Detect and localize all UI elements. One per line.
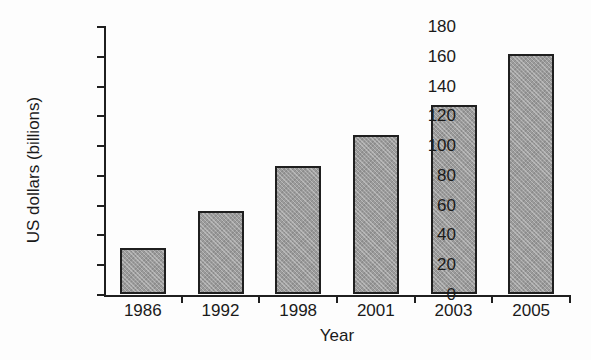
y-axis-title: US dollars (billions): [24, 40, 44, 300]
y-axis-tick: [97, 115, 105, 117]
y-axis-tick: [97, 205, 105, 207]
x-axis-tick-label: 2003: [415, 302, 493, 320]
y-axis-line: [104, 26, 106, 297]
y-axis-tick: [97, 294, 105, 296]
y-axis-tick-label: 120: [410, 107, 456, 124]
y-axis-tick-label: 100: [410, 137, 456, 154]
y-axis-tick: [97, 26, 105, 28]
y-axis-tick: [97, 86, 105, 88]
x-axis-tick-label: 2005: [492, 302, 570, 320]
y-axis-tick-label: 140: [410, 78, 456, 95]
bar: [120, 248, 166, 294]
y-axis-tick: [97, 264, 105, 266]
y-axis-tick: [97, 234, 105, 236]
y-axis-tick: [97, 56, 105, 58]
bar: [353, 135, 399, 294]
y-axis-tick-label: 180: [410, 18, 456, 35]
y-axis-tick-label: 80: [410, 167, 456, 184]
bar-chart-figure: US dollars (billions) 020406080100120140…: [0, 0, 591, 360]
y-axis-tick: [97, 175, 105, 177]
y-axis-tick-label: 20: [410, 256, 456, 273]
x-axis-tick-label: 1992: [182, 302, 260, 320]
plot-area: 020406080100120140160180: [104, 26, 570, 296]
y-axis-tick: [97, 145, 105, 147]
x-axis-title: Year: [104, 326, 570, 346]
x-axis-tick-label: 1998: [259, 302, 337, 320]
x-axis-tick-label: 1986: [104, 302, 182, 320]
x-axis-tick-label: 2001: [337, 302, 415, 320]
bar: [508, 54, 554, 294]
y-axis-tick-label: 160: [410, 48, 456, 65]
bar: [198, 211, 244, 294]
y-axis-tick-label: 40: [410, 226, 456, 243]
y-axis-tick-label: 60: [410, 197, 456, 214]
bar: [275, 166, 321, 294]
